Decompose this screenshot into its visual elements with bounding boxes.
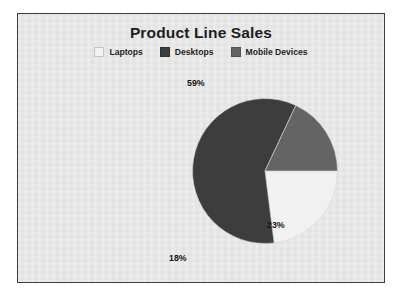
chart-frame: Product Line Sales Laptops Desktops Mobi… [17,13,385,283]
legend-item-desktops[interactable]: Desktops [160,47,214,57]
legend-label-laptops: Laptops [109,48,142,57]
pie-value-label-mobile-devices: 18% [169,254,187,263]
legend-swatch-laptops [94,47,104,57]
legend-item-laptops[interactable]: Laptops [94,47,142,57]
legend-swatch-mobile-devices [231,47,241,57]
pie-value-label-desktops: 59% [187,79,205,88]
legend-label-desktops: Desktops [175,48,214,57]
pie-chart [192,98,338,244]
pie-value-label-laptops: 23% [267,221,285,230]
pie-svg [192,98,338,244]
pie-slice-group [193,99,338,244]
page-title: Product Line Sales [18,24,384,42]
legend-label-mobile-devices: Mobile Devices [246,48,308,57]
pie-slice-laptops[interactable] [265,171,338,243]
legend-swatch-desktops [160,47,170,57]
legend-item-mobile-devices[interactable]: Mobile Devices [231,47,308,57]
chart-legend: Laptops Desktops Mobile Devices [18,47,384,57]
